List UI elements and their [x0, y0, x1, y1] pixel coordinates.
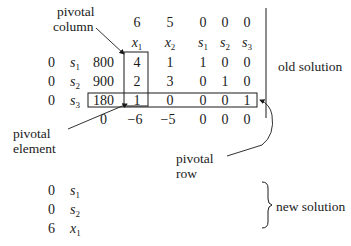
- pivotal-column-arrow: [96, 28, 124, 54]
- cb: 0: [48, 56, 55, 70]
- cell: 1: [215, 75, 235, 89]
- new-solution-label: new solution: [276, 199, 345, 214]
- new-basis-var: s2: [70, 203, 80, 221]
- cj-s1: 0: [193, 16, 213, 30]
- cj-x1: 6: [127, 16, 147, 30]
- basis-var: s2: [70, 75, 80, 93]
- eval-cell: 0: [237, 113, 257, 127]
- rhs: 900: [93, 75, 114, 89]
- new-solution-brace: [262, 182, 272, 228]
- pivotal-column-label: pivotal column: [57, 4, 95, 34]
- cb: 0: [48, 75, 55, 89]
- new-cb: 6: [48, 222, 55, 236]
- new-cb: 0: [48, 184, 55, 198]
- cell: 3: [160, 75, 180, 89]
- pivotal-row-label: pivotal row: [176, 151, 214, 181]
- new-basis-var: s1: [70, 184, 80, 202]
- cell: 1: [193, 56, 213, 70]
- var-s2: s2: [215, 36, 235, 54]
- new-cb: 0: [48, 203, 55, 217]
- var-s1: s1: [193, 36, 213, 54]
- pivotal-element: 1: [127, 94, 147, 108]
- cj-x2: 5: [160, 16, 180, 30]
- basis-var: s3: [70, 94, 80, 112]
- pivotal-element-label: pivotal element: [13, 126, 56, 156]
- cell: 0: [237, 56, 257, 70]
- cell: 4: [127, 56, 147, 70]
- basis-var: s1: [70, 56, 80, 74]
- cell: 0: [193, 75, 213, 89]
- cell: 0: [215, 56, 235, 70]
- old-solution-label: old solution: [278, 59, 342, 74]
- cj-s3: 0: [237, 16, 257, 30]
- cb: 0: [48, 94, 55, 108]
- cell: 0: [160, 94, 180, 108]
- eval-cell: −5: [158, 113, 178, 127]
- var-x2: x2: [160, 36, 180, 54]
- eval-cell: −6: [125, 113, 145, 127]
- rhs: 180: [93, 94, 114, 108]
- eval-rhs: 0: [100, 113, 107, 127]
- eval-cell: 0: [215, 113, 235, 127]
- eval-cell: 0: [193, 113, 213, 127]
- rhs: 800: [93, 56, 114, 70]
- cell: 0: [193, 94, 213, 108]
- cell: 2: [127, 75, 147, 89]
- cell: 0: [237, 75, 257, 89]
- cell: 0: [215, 94, 235, 108]
- cell: 1: [160, 56, 180, 70]
- var-x1: x1: [127, 36, 147, 54]
- new-basis-var: x1: [70, 222, 81, 240]
- cell: 1: [237, 94, 257, 108]
- var-s3: s3: [237, 36, 257, 54]
- cj-s2: 0: [215, 16, 235, 30]
